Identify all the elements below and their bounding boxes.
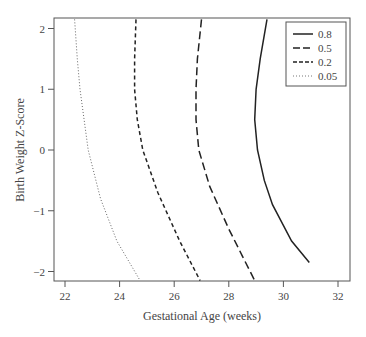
chart: −2−1012 222426283032 Gestational Age (we… [0,0,366,337]
y-tick-label: 2 [40,23,46,35]
y-tick-label: 0 [40,144,46,156]
x-tick-label: 26 [169,290,181,302]
x-axis-label: Gestational Age (weeks) [143,309,261,323]
x-tick-label: 32 [333,290,344,302]
x-tick-label: 24 [114,290,126,302]
series-0_5-line [196,19,255,280]
x-tick-label: 30 [278,290,290,302]
legend-label: 0.5 [318,42,332,54]
y-tick-label: −2 [33,266,45,278]
legend-label: 0.8 [318,28,332,40]
legend: 0.80.50.20.05 [286,22,346,86]
curves [75,19,310,280]
y-axis-label: Birth Weight Z-Score [13,98,27,201]
y-tick-label: 1 [40,83,46,95]
series-0_05-line [75,19,141,280]
series-0_2-line [135,19,201,280]
y-tick-label: −1 [33,205,45,217]
x-tick-label: 22 [60,290,71,302]
x-tick-label: 28 [223,290,235,302]
x-axis: 222426283032 [60,281,344,302]
legend-label: 0.05 [318,70,338,82]
y-axis: −2−1012 [33,23,54,278]
legend-label: 0.2 [318,56,332,68]
